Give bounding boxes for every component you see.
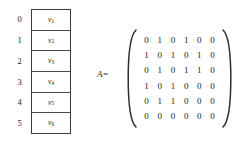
matrix-cell: 0 xyxy=(206,112,219,121)
matrix-cell: 0 xyxy=(180,112,193,121)
matrix-label: A= xyxy=(97,70,109,79)
vertex-cell: v3 xyxy=(32,51,70,72)
matrix-cell: 0 xyxy=(206,97,219,106)
matrix-cell: 0 xyxy=(206,82,219,91)
vertex-cell: v1 xyxy=(32,10,70,31)
matrix-cell: 0 xyxy=(180,51,193,60)
matrix-cell: 0 xyxy=(153,112,166,121)
matrix-cell: 0 xyxy=(180,82,193,91)
vertex-subscript: 4 xyxy=(52,81,55,86)
matrix-cell: 1 xyxy=(180,36,193,45)
matrix-grid: 0 1 0 1 0 0 1 0 1 0 1 0 0 1 0 1 1 0 xyxy=(137,28,222,129)
left-bracket-icon xyxy=(126,28,137,129)
matrix-cell: 1 xyxy=(193,66,206,75)
index-cell: 0 xyxy=(8,9,31,30)
right-bracket-icon xyxy=(222,28,233,129)
matrix-cell: 0 xyxy=(166,36,179,45)
index-column: 0 1 2 3 4 5 xyxy=(8,9,31,134)
matrix-cell: 0 xyxy=(193,82,206,91)
vertex-subscript: 1 xyxy=(52,19,55,24)
matrix-cell: 1 xyxy=(140,82,153,91)
matrix-row: 1 0 1 0 1 0 xyxy=(140,48,219,63)
vertex-cell: v5 xyxy=(32,93,70,114)
matrix-cell: 0 xyxy=(140,112,153,121)
vertex-subscript: 6 xyxy=(52,122,55,127)
matrix-cell: 0 xyxy=(140,66,153,75)
vertex-cell: v6 xyxy=(32,113,70,133)
index-cell: 4 xyxy=(8,92,31,113)
matrix-cell: 0 xyxy=(206,36,219,45)
matrix-cell: 1 xyxy=(193,51,206,60)
matrix-cell: 0 xyxy=(180,97,193,106)
vertex-table: 0 1 2 3 4 5 v1 v2 v3 v4 v5 v6 xyxy=(8,9,71,134)
matrix-cell: 0 xyxy=(193,97,206,106)
vertex-subscript: 5 xyxy=(52,101,55,106)
matrix-cell: 0 xyxy=(140,97,153,106)
matrix-row: 0 1 0 1 1 0 xyxy=(140,63,219,78)
matrix-cell: 0 xyxy=(193,36,206,45)
vertex-column: v1 v2 v3 v4 v5 v6 xyxy=(31,9,71,134)
matrix-cell: 0 xyxy=(206,51,219,60)
index-cell: 5 xyxy=(8,113,31,134)
matrix-row: 0 0 0 0 0 0 xyxy=(140,109,219,124)
matrix-cell: 0 xyxy=(140,36,153,45)
vertex-cell: v2 xyxy=(32,31,70,52)
vertex-subscript: 3 xyxy=(52,60,55,65)
matrix-cell: 1 xyxy=(166,82,179,91)
matrix-cell: 0 xyxy=(166,112,179,121)
matrix-row: 0 1 1 0 0 0 xyxy=(140,94,219,109)
adjacency-matrix: 0 1 0 1 0 0 1 0 1 0 1 0 0 1 0 1 1 0 xyxy=(126,28,233,129)
matrix-cell: 1 xyxy=(153,66,166,75)
matrix-cell: 1 xyxy=(166,51,179,60)
matrix-row: 0 1 0 1 0 0 xyxy=(140,33,219,48)
index-cell: 2 xyxy=(8,51,31,72)
matrix-cell: 0 xyxy=(206,66,219,75)
matrix-cell: 1 xyxy=(180,66,193,75)
matrix-cell: 1 xyxy=(153,36,166,45)
matrix-cell: 0 xyxy=(193,112,206,121)
matrix-cell: 0 xyxy=(166,66,179,75)
index-cell: 3 xyxy=(8,71,31,92)
graph-adjacency-figure: 0 1 2 3 4 5 v1 v2 v3 v4 v5 v6 A= 0 1 xyxy=(0,0,235,148)
vertex-cell: v4 xyxy=(32,72,70,93)
matrix-cell: 1 xyxy=(166,97,179,106)
matrix-row: 1 0 1 0 0 0 xyxy=(140,79,219,94)
index-cell: 1 xyxy=(8,30,31,51)
matrix-cell: 0 xyxy=(153,51,166,60)
matrix-cell: 1 xyxy=(153,97,166,106)
matrix-cell: 1 xyxy=(140,51,153,60)
vertex-subscript: 2 xyxy=(52,39,55,44)
matrix-cell: 0 xyxy=(153,82,166,91)
